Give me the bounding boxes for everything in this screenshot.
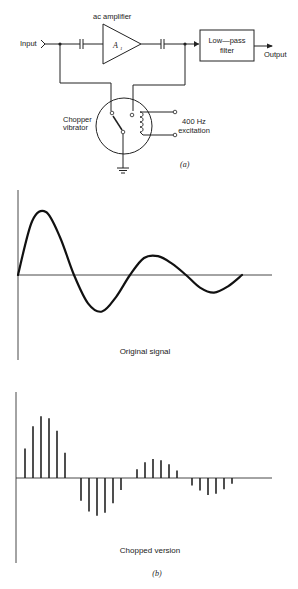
chart-title: Original signal: [120, 347, 171, 356]
amplifier-title: ac amplifier: [93, 12, 132, 21]
excitation-terminal-icon: [173, 110, 177, 114]
filter-label-line2: filter: [220, 46, 235, 55]
chopper-output-wire: [133, 44, 185, 111]
chopper-label-line2: vibrator: [63, 123, 89, 132]
signal-line: [18, 211, 242, 312]
capacitor-icon: [80, 39, 83, 49]
part-b-label: (b): [152, 569, 162, 578]
excitation-label-line2: excitation: [178, 126, 210, 135]
ground-icon: [117, 168, 129, 173]
chopped-signal-chart: Chopped version (b): [16, 392, 272, 578]
chopper-vibrator-housing: [96, 98, 152, 154]
switch-arm-icon: [113, 116, 122, 130]
capacitor-icon: [161, 39, 164, 49]
part-a-label: (a): [180, 160, 190, 169]
filter-label-line1: Low—pass: [208, 36, 245, 45]
excitation-terminal-icon: [173, 133, 177, 137]
amplifier-triangle-icon: [103, 24, 141, 64]
contact-icon: [130, 113, 134, 117]
arrow-icon: [194, 41, 199, 47]
contact-icon: [110, 111, 114, 115]
input-terminal-icon: [41, 40, 45, 48]
chart-title: Chopped version: [120, 546, 180, 555]
figure: Input ac amplifier A 1 Low—pass filter O…: [0, 0, 298, 589]
contact-icon: [121, 130, 125, 134]
amplifier-subscript: 1: [120, 46, 123, 51]
excitation-label-line1: 400 Hz: [182, 117, 206, 126]
coil-icon: [140, 112, 143, 132]
input-label: Input: [20, 39, 38, 48]
circuit-diagram: Input ac amplifier A 1 Low—pass filter O…: [20, 12, 287, 173]
amplifier-symbol: A: [112, 41, 118, 50]
output-arrow-icon: [267, 44, 273, 49]
original-signal-chart: Original signal: [18, 190, 272, 360]
output-label: Output: [264, 50, 287, 59]
